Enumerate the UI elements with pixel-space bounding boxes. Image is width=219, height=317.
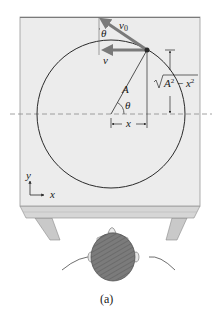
- radius-label: A: [121, 83, 129, 95]
- particle: [145, 48, 150, 53]
- theta-center-label: θ: [125, 99, 131, 111]
- table-leg-left: [35, 218, 60, 240]
- table-top: [20, 17, 200, 206]
- diagram-canvas: x A2 − x2 θ v0 v A θ y x (a): [0, 0, 219, 317]
- v-label: v: [103, 54, 108, 66]
- nose: [108, 228, 116, 234]
- figure-caption: (a): [100, 292, 113, 306]
- sqrt-expression: A2 − x2: [163, 77, 195, 89]
- observer-head: [62, 228, 175, 282]
- axis-x-label: x: [49, 188, 55, 200]
- table-leg-right: [166, 218, 187, 240]
- axis-y-label: y: [25, 169, 31, 181]
- theta-top-label: θ: [101, 27, 107, 39]
- hair: [91, 233, 135, 281]
- x-dimension-label: x: [125, 117, 131, 129]
